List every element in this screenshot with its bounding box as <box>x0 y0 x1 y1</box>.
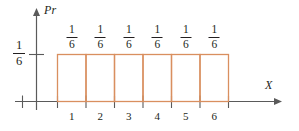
figure-background <box>0 0 299 131</box>
bar-value-numerator: 1 <box>96 24 104 36</box>
x-axis-tick-label-4: 4 <box>155 110 161 122</box>
bar-value-label-2: 1 6 <box>95 24 106 50</box>
bar-value-numerator: 1 <box>68 24 76 36</box>
bar-value-label-6: 1 6 <box>209 24 220 50</box>
bar-value-label-4: 1 6 <box>152 24 163 50</box>
bar-value-denominator: 6 <box>96 38 104 50</box>
bar-value-label-3: 1 6 <box>123 24 134 50</box>
bar-value-label-5: 1 6 <box>180 24 191 50</box>
bar-value-denominator: 6 <box>182 38 190 50</box>
y-axis-tick-label: 1 6 <box>13 39 25 68</box>
bar-value-denominator: 6 <box>125 38 133 50</box>
x-axis-label: X <box>265 79 272 91</box>
bar-value-denominator: 6 <box>153 38 161 50</box>
y-tick-denominator: 6 <box>15 54 23 67</box>
probability-distribution-figure: Pr X 1 6 1 6 1 6 1 6 1 6 1 6 1 6 1 2 3 <box>0 0 299 131</box>
x-axis-tick-label-1: 1 <box>69 110 75 122</box>
y-tick-numerator: 1 <box>15 39 23 52</box>
x-axis-tick-label-2: 2 <box>98 110 104 122</box>
x-axis-tick-label-6: 6 <box>212 110 218 122</box>
bar-value-numerator: 1 <box>153 24 161 36</box>
bar-value-numerator: 1 <box>125 24 133 36</box>
x-axis-tick-label-5: 5 <box>183 110 189 122</box>
bar-value-numerator: 1 <box>210 24 218 36</box>
bar-value-numerator: 1 <box>182 24 190 36</box>
figure-canvas <box>0 0 299 131</box>
bar-value-label-1: 1 6 <box>66 24 77 50</box>
bar-value-denominator: 6 <box>68 38 76 50</box>
x-axis-tick-label-3: 3 <box>126 110 132 122</box>
y-axis-label: Pr <box>44 4 56 16</box>
bar-value-denominator: 6 <box>210 38 218 50</box>
